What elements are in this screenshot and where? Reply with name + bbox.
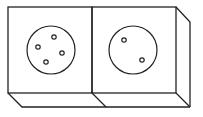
bottom-slab-divider	[92, 93, 106, 107]
bottom-slab-corner-right	[176, 93, 190, 107]
left-face-hole-4	[44, 60, 48, 64]
right-face-circle	[109, 26, 157, 74]
right-face-hole-2	[140, 58, 144, 62]
left-face-circle	[27, 26, 75, 74]
left-face-hole-1	[52, 35, 56, 39]
left-face-hole-2	[36, 45, 40, 49]
block-diagram	[0, 0, 203, 117]
right-face-outline	[92, 7, 176, 93]
left-face-hole-3	[60, 51, 64, 55]
left-face-outline	[8, 7, 92, 93]
diagram-canvas	[0, 0, 203, 117]
right-side-edge	[176, 7, 190, 107]
right-face-hole-1	[122, 38, 126, 42]
